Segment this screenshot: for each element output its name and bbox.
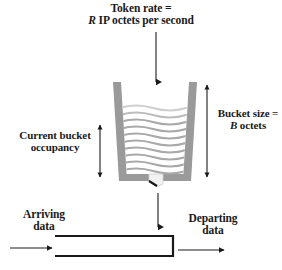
bucket-fill-waves (120, 106, 186, 174)
token-rate-line2: R IP octets per second (0, 14, 282, 26)
current-bucket-occupancy-label: Current bucket occupancy (14, 130, 96, 154)
token-rate-label: Token rate = R IP octets per second (0, 2, 282, 27)
token-rate-variable: R (88, 14, 96, 26)
departing-data-label: Departing data (172, 212, 254, 237)
bucket-size-line2: B octets (214, 120, 282, 132)
figure-canvas: Token rate = R IP octets per second Buck… (0, 0, 282, 270)
bucket (113, 82, 197, 187)
bucket-size-line1: Bucket size = (218, 107, 279, 119)
token-rate-line1: Token rate = (110, 2, 171, 14)
occupancy-line2: occupancy (14, 142, 96, 154)
arriving-data-label: Arriving data (6, 208, 82, 233)
arriving-line2: data (6, 220, 82, 232)
token-rate-line2-rest: IP octets per second (96, 14, 194, 26)
data-pipe (55, 236, 173, 256)
bucket-spout (149, 174, 163, 187)
bucket-size-label: Bucket size = B octets (214, 108, 282, 132)
arriving-line1: Arriving (23, 208, 65, 220)
bucket-size-line2-rest: octets (237, 119, 266, 131)
departing-line1: Departing (189, 212, 238, 224)
occupancy-line1: Current bucket (19, 129, 90, 141)
departing-line2: data (172, 224, 254, 236)
